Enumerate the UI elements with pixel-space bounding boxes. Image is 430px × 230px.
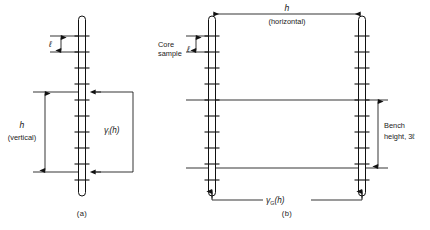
left-drill-core — [205, 16, 220, 196]
orientation-label-b: (horizontal) — [269, 17, 306, 26]
variogram-arg-b: (h) — [275, 196, 285, 205]
separation-dimension-b: h (horizontal) — [214, 3, 361, 26]
core-sample-annotation: Core sample ℓ — [158, 36, 208, 58]
sample-length-dimension-a: ℓ — [48, 36, 78, 52]
panel-b: h (horizontal) Core sample ℓ Bench heigh… — [158, 3, 415, 218]
bench-height-label-line1: Bench — [384, 121, 405, 130]
separation-label-a: h — [20, 120, 25, 130]
right-drill-core-rod — [359, 16, 366, 196]
panel-a: ℓ h (vertical) γl(h) (a) — [8, 16, 133, 218]
variogram-label-b: γG(h) — [266, 195, 285, 206]
bench-height-dimension: Bench height, 3ℓ — [378, 102, 415, 167]
drill-core-rod — [79, 16, 86, 196]
core-sample-label-line1: Core — [158, 40, 174, 49]
separation-label-b: h — [285, 3, 290, 13]
variogram-dimension-b: γG(h) — [212, 190, 362, 206]
variogram-leader-a: γl(h) — [95, 92, 133, 172]
left-drill-core-rod — [209, 16, 216, 196]
variogram-arg-a: (h) — [110, 126, 120, 135]
technical-diagram: ℓ h (vertical) γl(h) (a) — [0, 0, 430, 230]
sample-length-label-a: ℓ — [48, 39, 52, 49]
figure-root: ℓ h (vertical) γl(h) (a) — [0, 0, 430, 230]
orientation-label-a: (vertical) — [8, 133, 36, 142]
caption-panel-a: (a) — [77, 209, 88, 218]
core-sample-label-line2: sample — [158, 49, 182, 58]
vertical-drill-core — [75, 16, 90, 196]
variogram-label-a: γl(h) — [104, 125, 120, 136]
sample-length-label-b: ℓ — [186, 44, 190, 54]
bench-lines — [186, 100, 388, 168]
bench-height-label-line2: height, 3ℓ — [384, 132, 415, 141]
separation-dimension-a: h (vertical) — [8, 92, 78, 172]
right-drill-core — [355, 16, 370, 196]
caption-panel-b: (b) — [282, 209, 293, 218]
